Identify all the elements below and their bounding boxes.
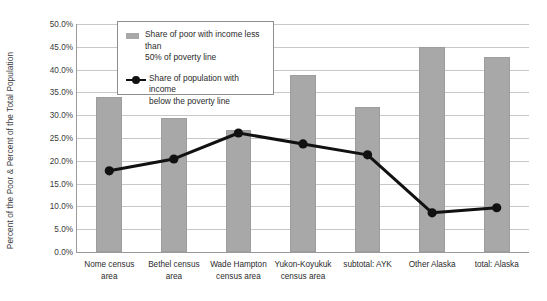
y-axis-tick-label: 45.0% xyxy=(28,42,73,51)
legend-label-line-series: Share of population with income below th… xyxy=(149,73,267,108)
line-marker xyxy=(363,150,372,159)
line-marker xyxy=(105,166,114,175)
x-axis-category-label: Bethel census area xyxy=(142,259,207,282)
legend-line-swatch-icon xyxy=(126,75,146,84)
line-marker xyxy=(298,139,307,148)
y-axis-tick-label: 15.0% xyxy=(28,179,73,188)
y-axis-tick-label: 0.0% xyxy=(28,248,73,257)
line-marker xyxy=(492,203,501,212)
x-axis-category-label: Other Alaska xyxy=(400,259,465,271)
line-marker xyxy=(169,154,178,163)
x-axis-category-labels: Nome census areaBethel census areaWade H… xyxy=(77,259,529,299)
y-axis-tick-label: 20.0% xyxy=(28,156,73,165)
y-axis-tick-label: 25.0% xyxy=(28,134,73,143)
x-axis-category-label: total: Alaska xyxy=(464,259,529,271)
chart-legend: Share of poor with income less than 50% … xyxy=(117,21,274,95)
y-axis-tick-label: 5.0% xyxy=(28,225,73,234)
y-axis-tick-labels: 50.0%45.0%40.0%35.0%30.0%25.0%20.0%15.0%… xyxy=(28,24,73,252)
line-marker xyxy=(428,208,437,217)
legend-item-line-series: Share of population with income below th… xyxy=(126,73,267,108)
y-axis-title: Percent of the Poor & Percent of the Tot… xyxy=(0,0,20,301)
legend-item-bar-series: Share of poor with income less than 50% … xyxy=(126,29,267,64)
poverty-share-chart: Percent of the Poor & Percent of the Tot… xyxy=(0,0,547,301)
y-axis-tick-label: 35.0% xyxy=(28,88,73,97)
x-axis-category-label: Nome census area xyxy=(77,259,142,282)
legend-label-bar-series: Share of poor with income less than 50% … xyxy=(145,29,267,64)
y-axis-tick-label: 50.0% xyxy=(28,20,73,29)
y-axis-tick-label: 10.0% xyxy=(28,202,73,211)
x-axis-category-label: subtotal: AYK xyxy=(335,259,400,271)
y-axis-tick-label: 30.0% xyxy=(28,111,73,120)
x-axis-category-label: Yukon-Koyukuk census area xyxy=(271,259,336,282)
legend-bar-swatch-icon xyxy=(126,33,139,39)
x-axis-category-label: Wade Hampton census area xyxy=(206,259,271,282)
line-marker xyxy=(234,128,243,137)
y-axis-tick-label: 40.0% xyxy=(28,65,73,74)
